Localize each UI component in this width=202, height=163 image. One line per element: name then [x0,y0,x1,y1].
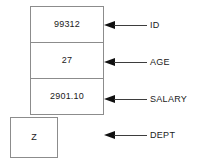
field-label-age: AGE [150,58,170,67]
arrow-shaft [114,25,147,26]
arrow-shaft [114,99,147,100]
arrow-shaft [114,135,147,136]
field-value-salary: 2901.10 [50,92,84,101]
field-value-id: 99312 [54,20,80,29]
field-label-dept: DEPT [150,131,175,140]
field-box-salary: 2901.10 [30,78,104,115]
record-structure-diagram: 99312 ID 27 AGE 2901.10 SALARY Z DEPT [0,0,202,163]
field-box-id: 99312 [30,6,104,43]
arrow-shaft [114,62,147,63]
field-label-id: ID [150,21,160,30]
field-value-dept: Z [31,133,37,142]
field-label-salary: SALARY [150,95,187,104]
field-box-age: 27 [30,42,104,79]
field-value-age: 27 [62,56,72,65]
field-box-dept: Z [10,117,58,158]
